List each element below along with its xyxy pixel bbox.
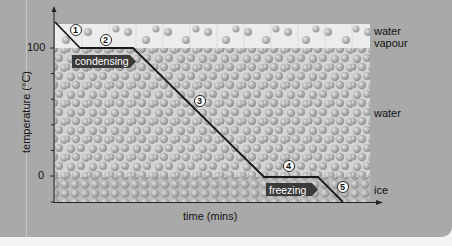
region-label-ice: ice [374,184,388,196]
region-label-water: water [374,107,401,119]
region-label-vapour-2: vapour [374,37,408,49]
stage-marker-2-label: 2 [103,34,108,46]
y-axis [50,10,54,203]
y-axis-arrow-icon [52,6,57,12]
freezing-tag-label: freezing [269,184,306,196]
stage-marker-5-label: 5 [340,181,345,193]
y-tick-100: 100 [27,41,45,53]
x-axis-label: time (mins) [183,210,237,222]
stage-marker-1-label: 1 [73,24,78,36]
y-tick-0: 0 [38,169,44,181]
y-axis-label: temperature (°C) [20,71,32,153]
stage-marker-4-label: 4 [286,160,291,172]
region-label-vapour-1: water [374,25,401,37]
x-axis-arrow-icon [376,200,383,205]
stage-marker-3-label: 3 [197,95,202,107]
condensing-tag-label: condensing [75,55,129,67]
